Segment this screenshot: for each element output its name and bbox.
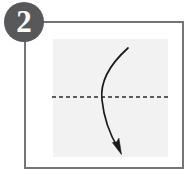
fold-arrow-curve	[102, 48, 128, 148]
step-number-label: 2	[16, 6, 32, 39]
origami-step-figure: 2	[0, 0, 194, 179]
step-number-badge: 2	[4, 2, 44, 42]
